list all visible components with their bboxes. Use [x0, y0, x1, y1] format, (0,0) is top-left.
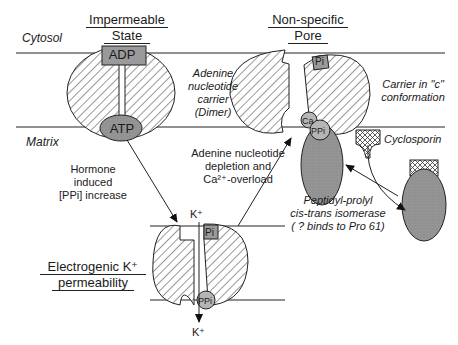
carrier-c-label: Carrier in "c" conformation	[376, 78, 450, 104]
hormone-arrow	[127, 140, 177, 222]
ppi-label-pore: PPi	[311, 125, 325, 138]
pi-label-electrogenic: Pi	[205, 226, 214, 239]
pi-label-pore: Pi	[315, 55, 324, 68]
ppi-label-electrogenic: PPi	[198, 295, 212, 308]
isomerase-label: Peptidyl-prolyl cis-trans isomerase ( ? …	[288, 194, 388, 233]
cytosol-label: Cytosol	[22, 32, 62, 45]
hormone-label: Hormone induced [PPi] increase	[52, 163, 134, 202]
depletion-label: Adenine nucleotide depletion and Ca²⁺-ov…	[186, 147, 290, 186]
matrix-label: Matrix	[26, 136, 59, 149]
k-in-label: K⁺	[190, 208, 203, 221]
electrogenic-title: Electrogenic K⁺ permeability	[40, 259, 146, 291]
adp-label: ADP	[105, 48, 139, 61]
impermeable-state-title: Impermeable State	[86, 12, 168, 44]
cyclosporin-label: Cyclosporin	[384, 133, 441, 146]
pore-title: Non-specific Pore	[268, 12, 348, 44]
k-out-label: K⁺	[192, 326, 205, 339]
isomerase-bound	[402, 160, 446, 241]
carrier-dimer-label: Adenine nucleotide carrier (Dimer)	[180, 67, 246, 119]
atp-label: ATP	[105, 122, 139, 135]
isomerase-arrow	[346, 165, 398, 196]
